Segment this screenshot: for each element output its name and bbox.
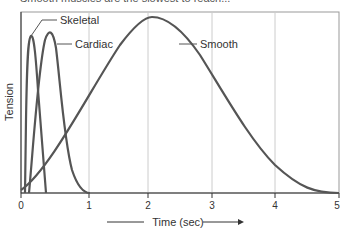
svg-text:0: 0 (18, 200, 24, 211)
label-skeletal: Skeletal (60, 14, 99, 26)
svg-text:5: 5 (334, 200, 340, 211)
series-smooth (21, 17, 339, 193)
svg-text:3: 3 (209, 200, 215, 211)
svg-text:1: 1 (86, 200, 92, 211)
gridlines (89, 12, 275, 193)
x-tick-labels: 0 1 2 3 4 5 (18, 200, 340, 211)
x-axis-label: Time (sec) (152, 216, 204, 228)
series-cardiac (29, 32, 90, 193)
label-smooth: Smooth (200, 38, 238, 50)
svg-text:4: 4 (272, 200, 278, 211)
label-cardiac: Cardiac (75, 38, 113, 50)
y-axis-label: Tension (3, 83, 15, 121)
chart: 0 1 2 3 4 5 Time (sec) Tension Skeletal … (0, 0, 342, 229)
svg-text:2: 2 (145, 200, 151, 211)
plot-frame (21, 12, 339, 193)
arrow-right-icon (238, 219, 244, 225)
